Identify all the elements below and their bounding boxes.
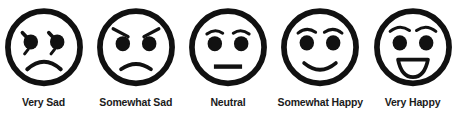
rating-option-neutral[interactable]: Neutral <box>183 0 274 123</box>
rating-option-very-happy[interactable]: Very Happy <box>367 0 456 123</box>
rating-label-neutral: Neutral <box>210 96 245 108</box>
satisfaction-rating-scale: Very Sad Somewhat Sad <box>0 0 456 123</box>
slightly-smiling-face-icon[interactable] <box>276 3 364 95</box>
rating-option-somewhat-happy[interactable]: Somewhat Happy <box>275 0 366 123</box>
rating-label-somewhat-sad: Somewhat Sad <box>99 96 172 108</box>
rating-label-somewhat-happy: Somewhat Happy <box>278 96 363 108</box>
rating-option-very-sad[interactable]: Very Sad <box>0 0 89 123</box>
slightly-frowning-face-icon[interactable] <box>92 3 180 95</box>
rating-option-somewhat-sad[interactable]: Somewhat Sad <box>90 0 181 123</box>
rating-label-very-happy: Very Happy <box>385 96 441 108</box>
frowning-face-with-tear-icon[interactable] <box>0 3 88 95</box>
neutral-face-icon[interactable] <box>184 3 272 95</box>
rating-label-very-sad: Very Sad <box>22 96 65 108</box>
grinning-face-icon[interactable] <box>369 3 456 95</box>
